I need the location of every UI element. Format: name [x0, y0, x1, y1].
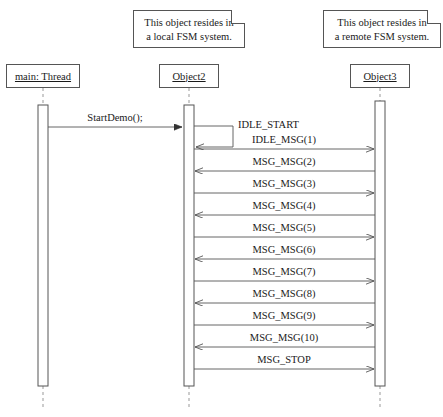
message-label-idle-start: IDLE_START [238, 119, 299, 130]
note-fold-icon [231, 10, 245, 24]
note-fold-icon [427, 10, 441, 24]
note-local-fsm: This object resides in a local FSM syste… [133, 10, 245, 48]
message-label-9: MSG_MSG(9) [252, 310, 315, 321]
lifeline-head-main-thread[interactable]: main: Thread [6, 64, 80, 88]
message-label-7: MSG_MSG(7) [252, 266, 315, 277]
message-label-4: MSG_MSG(4) [252, 200, 315, 211]
sequence-diagram: This object resides in a local FSM syste… [0, 0, 443, 417]
message-label-3: MSG_MSG(3) [252, 178, 315, 189]
message-label-1: IDLE_MSG(1) [252, 134, 316, 145]
lifeline-label-main-thread: main: Thread [15, 71, 71, 82]
message-label-stop: MSG_STOP [257, 354, 311, 365]
message-label-5: MSG_MSG(5) [252, 222, 315, 233]
lifeline-head-object3[interactable]: Object3 [350, 64, 410, 88]
lifeline-dashes [43, 88, 380, 409]
note-remote-line2: a remote FSM system. [324, 30, 440, 44]
activation-bar-main-thread [38, 105, 48, 386]
arrow-msg-idle-start [194, 126, 233, 147]
message-label-startdemo: StartDemo(); [87, 112, 142, 123]
diagram-vector-layer [0, 0, 443, 417]
note-remote-fsm: This object resides in a remote FSM syst… [323, 10, 441, 48]
activation-bars [38, 101, 385, 386]
activation-bar-object2 [184, 105, 194, 386]
lifeline-label-object3: Object3 [363, 71, 396, 82]
message-arrows [48, 126, 375, 369]
lifeline-label-object2: Object2 [172, 71, 205, 82]
note-local-line1: This object resides in [134, 16, 244, 30]
message-label-2: MSG_MSG(2) [252, 156, 315, 167]
lifeline-head-object2[interactable]: Object2 [159, 64, 219, 88]
note-local-line2: a local FSM system. [134, 30, 244, 44]
note-remote-line1: This object resides in [324, 16, 440, 30]
message-label-8: MSG_MSG(8) [252, 288, 315, 299]
message-label-10: MSG_MSG(10) [250, 332, 318, 343]
message-label-6: MSG_MSG(6) [252, 244, 315, 255]
activation-bar-object3 [375, 101, 385, 386]
